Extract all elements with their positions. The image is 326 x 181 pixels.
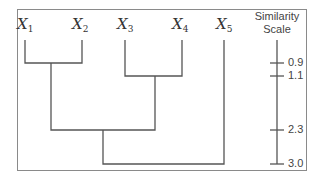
merge-x12-x34 xyxy=(51,63,155,130)
merge-x3-x4 xyxy=(125,40,182,76)
scale-tick-label-1.1: 1.1 xyxy=(288,70,303,81)
scale-tick-label-2.3: 2.3 xyxy=(288,124,303,135)
dendrogram-lines xyxy=(0,0,326,181)
merge-x1-x2 xyxy=(25,40,82,63)
dendrogram-figure: X1 X2 X3 X4 X5 Similarity Scale 0.9 1.1 … xyxy=(0,0,326,181)
merge-all-x5 xyxy=(103,40,224,164)
scale-tick-label-0.9: 0.9 xyxy=(288,57,303,68)
scale-tick-label-3.0: 3.0 xyxy=(288,158,303,169)
